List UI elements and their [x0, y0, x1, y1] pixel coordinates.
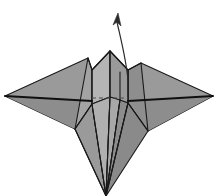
origami-diagram-canvas [0, 0, 220, 196]
origami-diagram-figure [0, 0, 220, 196]
